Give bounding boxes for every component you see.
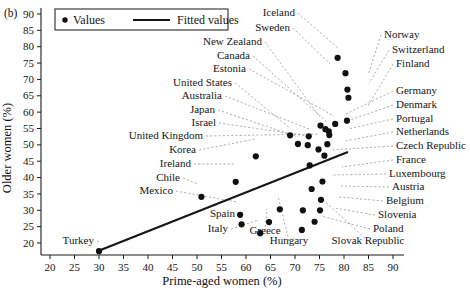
data-point xyxy=(321,153,327,159)
data-point xyxy=(305,142,311,148)
country-label: Italy xyxy=(208,222,229,234)
data-point xyxy=(237,212,243,218)
leader-line xyxy=(298,13,338,48)
y-tick-label: 80 xyxy=(23,40,35,52)
country-label: Luxembourg xyxy=(389,167,446,179)
data-point xyxy=(306,133,312,139)
legend-fitted-label: Fitted values xyxy=(177,13,239,27)
x-tick-label: 40 xyxy=(143,261,155,273)
country-label: Iceland xyxy=(263,6,296,18)
y-tick-label: 50 xyxy=(23,138,35,150)
data-point xyxy=(96,248,102,254)
country-label: Japan xyxy=(190,103,216,115)
country-labels-group: IcelandSwedenNew ZealandCanadaEstoniaUni… xyxy=(63,6,466,246)
country-label: Poland xyxy=(373,222,404,234)
leader-line xyxy=(219,123,308,136)
y-tick-label: 20 xyxy=(23,237,35,249)
data-point xyxy=(344,86,350,92)
y-tick-label: 55 xyxy=(23,122,35,134)
data-point xyxy=(335,55,341,61)
leader-line xyxy=(199,139,255,150)
legend-group: ValuesFitted values xyxy=(55,9,239,30)
plot-svg: 2025303540455055606570758085902025303540… xyxy=(0,0,470,292)
x-tick-label: 35 xyxy=(118,261,130,273)
country-label: Mexico xyxy=(139,184,173,196)
legend-marker-icon xyxy=(62,17,67,22)
data-point xyxy=(342,70,348,76)
y-tick-label: 90 xyxy=(23,8,35,20)
country-label: Sweden xyxy=(255,21,290,33)
data-point xyxy=(287,132,293,138)
country-label: Korea xyxy=(169,143,196,155)
leader-line xyxy=(350,105,393,120)
data-point xyxy=(253,153,259,159)
y-tick-label: 30 xyxy=(23,204,35,216)
x-tick-label: 70 xyxy=(290,261,302,273)
leader-lines-group xyxy=(97,13,393,242)
leader-line xyxy=(293,28,330,64)
country-label: Portugal xyxy=(396,112,433,124)
country-label: Switzerland xyxy=(392,43,445,55)
country-label: New Zealand xyxy=(203,35,262,47)
leader-line xyxy=(368,64,393,106)
leader-line xyxy=(368,35,381,75)
country-label: Belgium xyxy=(386,194,424,206)
y-tick-label: 45 xyxy=(23,155,35,167)
data-point xyxy=(277,206,283,212)
leader-line xyxy=(330,146,393,150)
country-label: Germany xyxy=(396,84,437,96)
leader-line xyxy=(348,119,393,129)
data-point xyxy=(345,95,351,101)
country-label: Norway xyxy=(384,28,420,40)
leader-line xyxy=(334,208,375,215)
country-label: France xyxy=(396,153,426,165)
data-point xyxy=(317,207,323,213)
country-label: Ireland xyxy=(160,157,192,169)
country-label: Denmark xyxy=(396,98,437,110)
country-label: Chile xyxy=(156,171,180,183)
country-label: Netherlands xyxy=(396,125,449,137)
leader-line xyxy=(253,56,328,123)
x-tick-label: 60 xyxy=(241,261,253,273)
legend-values-label: Values xyxy=(73,13,105,27)
y-tick-label: 35 xyxy=(23,188,35,200)
country-label: Spain xyxy=(210,207,236,219)
leader-line xyxy=(206,134,318,136)
leader-line xyxy=(225,96,309,129)
leader-line xyxy=(342,160,393,167)
country-label: Slovak Republic xyxy=(331,234,404,246)
data-point xyxy=(318,197,324,203)
leader-line xyxy=(249,69,334,116)
x-tick-label: 90 xyxy=(388,261,400,273)
leader-line xyxy=(340,186,389,187)
data-point xyxy=(309,186,315,192)
country-label: Estonia xyxy=(213,62,246,74)
x-tick-label: 85 xyxy=(363,261,375,273)
leader-line xyxy=(345,132,393,141)
country-label: Israel xyxy=(192,116,216,128)
data-point xyxy=(198,194,204,200)
leader-line xyxy=(97,241,100,242)
leader-line xyxy=(346,91,393,114)
data-point xyxy=(299,227,305,233)
data-point xyxy=(300,207,306,213)
scatter-plot-figure: 2025303540455055606570758085902025303540… xyxy=(0,0,470,292)
leader-line xyxy=(331,174,386,175)
country-label: Czech Republic xyxy=(396,139,466,151)
leader-line xyxy=(235,83,290,128)
data-point xyxy=(238,221,244,227)
y-tick-label: 75 xyxy=(23,57,35,69)
data-point xyxy=(315,146,321,152)
y-tick-label: 25 xyxy=(23,220,35,232)
x-tick-label: 80 xyxy=(339,261,351,273)
x-tick-label: 45 xyxy=(167,261,179,273)
country-label: Canada xyxy=(217,49,250,61)
country-label: Austria xyxy=(392,180,425,192)
y-tick-label: 70 xyxy=(23,73,35,85)
x-tick-label: 65 xyxy=(265,261,277,273)
country-label: Slovenia xyxy=(378,208,417,220)
leader-line xyxy=(369,50,389,83)
y-tick-label: 85 xyxy=(23,24,35,36)
data-point xyxy=(326,128,332,134)
x-tick-label: 30 xyxy=(94,261,106,273)
